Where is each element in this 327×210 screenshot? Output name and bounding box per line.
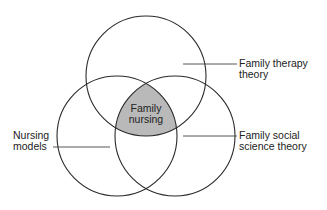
label-line: science theory <box>239 141 307 152</box>
label-line: theory <box>239 69 308 80</box>
label-family-social-science-theory: Family social science theory <box>239 130 307 152</box>
label-line: models <box>13 141 49 152</box>
label-line: nursing <box>116 114 176 125</box>
label-family-therapy-theory: Family therapy theory <box>239 58 308 80</box>
label-family-nursing: Family nursing <box>116 103 176 125</box>
label-nursing-models: Nursing models <box>13 130 49 152</box>
